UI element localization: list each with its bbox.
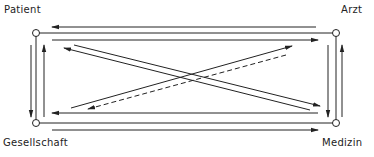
node-medizin	[333, 120, 340, 127]
node-gesellschaft	[33, 120, 40, 127]
node-arzt	[333, 30, 340, 37]
node-patient	[33, 30, 40, 37]
arrow-arzt-to-gesellschaft-dashed	[88, 55, 286, 109]
arrow-gesellschaft-to-arzt	[71, 46, 292, 108]
arrow-medizin-to-patient	[64, 48, 310, 110]
relationship-diagram	[0, 0, 374, 157]
